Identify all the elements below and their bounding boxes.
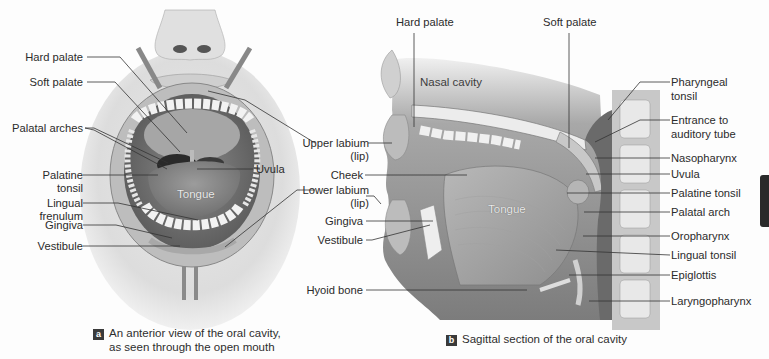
label-lower-labium-2: (lip) [350,197,369,210]
label-epiglottis: Epiglottis [671,269,716,282]
label-gingiva-a: Gingiva [45,219,83,232]
label-pharyngeal-tonsil-1: Pharyngeal [671,76,728,89]
sagittal-section-art [381,50,660,330]
label-entrance-auditory-1: Entrance to [671,114,728,127]
label-nasopharynx: Nasopharynx [671,152,737,165]
label-lower-labium-1: Lower labium [302,184,369,197]
anatomy-illustration [0,0,769,359]
caption-b-text: Sagittal section of the oral cavity [462,333,627,345]
caption-a-line2: as seen through the open mouth [109,341,275,353]
caption-a-line1: An anterior view of the oral cavity, [109,327,281,339]
label-vestibule-b: Vestibule [318,234,363,247]
panel-a-badge: a [93,329,104,340]
label-uvula-a: Uvula [256,163,285,176]
label-uvula-b: Uvula [671,168,700,181]
label-oropharynx: Oropharynx [671,230,729,243]
label-upper-labium-2: (lip) [350,150,369,163]
label-hard-palate-b: Hard palate [396,16,454,29]
label-upper-labium-1: Upper labium [302,137,369,150]
label-hyoid-bone: Hyoid bone [306,284,363,297]
label-vestibule-a: Vestibule [38,240,83,253]
label-tongue-b: Tongue [488,203,526,216]
label-soft-palate-a: Soft palate [30,76,84,89]
label-palatine-tonsil-a-1: Palatine [43,169,83,182]
label-cheek: Cheek [331,169,363,182]
panel-b-badge: b [446,335,457,346]
label-entrance-auditory-2: auditory tube [671,128,736,141]
label-palatal-arches: Palatal arches [12,122,83,135]
label-palatine-tonsil-a-2: tonsil [57,182,83,195]
label-soft-palate-b: Soft palate [543,16,597,29]
caption-panel-a: aAn anterior view of the oral cavity, as… [93,326,281,354]
page-edge-tab [760,175,769,227]
oral-cavity-figure: Hard palate Soft palate Palatal arches P… [0,0,769,359]
label-nasal-cavity: Nasal cavity [420,76,482,89]
label-lingual-tonsil: Lingual tonsil [671,249,736,262]
label-pharyngeal-tonsil-2: tonsil [671,90,697,103]
label-palatal-arch: Palatal arch [671,206,730,219]
label-laryngopharynx: Laryngopharynx [671,295,751,308]
label-lingual-frenulum-1: Lingual [47,197,83,210]
label-hard-palate-a: Hard palate [25,51,83,64]
caption-panel-b: bSagittal section of the oral cavity [446,332,627,346]
label-gingiva-b: Gingiva [325,215,363,228]
label-palatine-tonsil-b: Palatine tonsil [671,187,741,200]
label-tongue-a: Tongue [177,188,215,201]
